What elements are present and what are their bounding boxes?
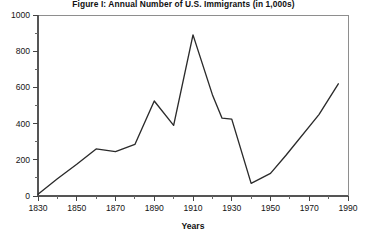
figure-container: Figure I: Annual Number of U.S. Immigran…	[0, 0, 367, 233]
immigration-series-line	[38, 35, 338, 194]
x-tick-label: 1870	[106, 203, 125, 213]
x-tick-label: 1850	[67, 203, 86, 213]
y-tick-label: 800	[16, 46, 31, 56]
x-tick-label: 1950	[261, 203, 280, 213]
x-axis-title: Years	[182, 221, 205, 231]
x-tick-label: 1930	[222, 203, 241, 213]
line-chart: 02004006008001000 1830185018701890191019…	[0, 0, 367, 233]
y-tick-label: 200	[16, 155, 31, 165]
plot-frame	[38, 15, 348, 196]
x-tick-label: 1990	[338, 203, 357, 213]
x-axis-tick-labels: 183018501870189019101930195019701990	[28, 203, 357, 213]
y-tick-label: 0	[25, 191, 30, 201]
y-tick-label: 1000	[11, 10, 30, 20]
x-tick-label: 1910	[183, 203, 202, 213]
y-tick-label: 400	[16, 119, 31, 129]
x-axis-ticks	[38, 196, 348, 201]
y-axis-tick-labels: 02004006008001000	[11, 10, 30, 201]
x-tick-label: 1970	[300, 203, 319, 213]
y-tick-label: 600	[16, 82, 31, 92]
x-tick-label: 1890	[145, 203, 164, 213]
x-tick-label: 1830	[28, 203, 47, 213]
y-axis-ticks	[33, 15, 38, 196]
